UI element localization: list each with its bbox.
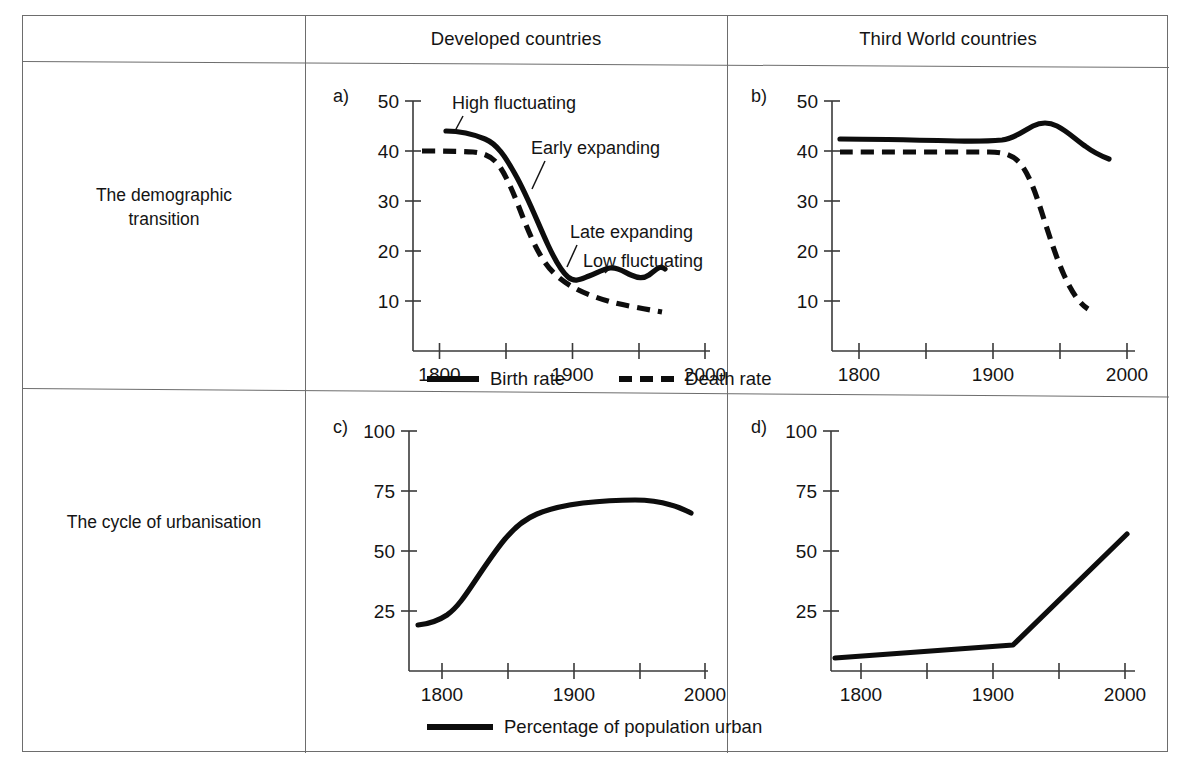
solid-line-swatch-icon <box>427 376 479 382</box>
legend-birth-death-rate: Birth rate Death rate <box>427 368 771 390</box>
legend-item-percentage-urban: Percentage of population urban <box>427 716 762 738</box>
chart-a-annotations: High fluctuating Early expanding Late ex… <box>452 93 703 273</box>
svg-text:1800: 1800 <box>840 684 882 705</box>
chart-c-axes <box>401 431 708 679</box>
legend-item-birth-rate: Birth rate <box>427 368 565 390</box>
chart-c-y-tick-labels: 100 75 50 25 <box>363 421 395 622</box>
chart-a-y-tick-labels: 50 40 30 20 10 <box>378 91 399 312</box>
figure-page: Developed countries Third World countrie… <box>0 0 1186 775</box>
svg-text:25: 25 <box>374 601 395 622</box>
svg-text:30: 30 <box>797 191 818 212</box>
dashed-line-swatch-icon <box>619 376 674 382</box>
chart-b-demographic-transition-third-world: 50 40 30 20 10 1800 1900 2000 <box>727 61 1169 388</box>
svg-text:2000: 2000 <box>1104 684 1146 705</box>
chart-cell-a: a) <box>305 61 727 388</box>
svg-text:2000: 2000 <box>1106 364 1148 385</box>
svg-text:75: 75 <box>796 481 817 502</box>
column-header-third-world: Third World countries <box>727 16 1169 61</box>
svg-text:2000: 2000 <box>684 684 726 705</box>
svg-text:25: 25 <box>796 601 817 622</box>
svg-text:10: 10 <box>378 291 399 312</box>
chart-cell-d: d) 100 75 50 <box>727 389 1169 753</box>
annotation-low-fluctuating: Low fluctuating <box>583 251 703 271</box>
legend-item-death-rate: Death rate <box>619 368 771 390</box>
annotation-early-expanding: Early expanding <box>531 138 660 158</box>
chart-d-axes <box>823 431 1135 679</box>
chart-b-y-tick-labels: 50 40 30 20 10 <box>797 91 818 312</box>
chart-d-y-tick-labels: 100 75 50 25 <box>785 421 817 622</box>
svg-text:1800: 1800 <box>421 684 463 705</box>
chart-b-x-tick-labels: 1800 1900 2000 <box>838 364 1148 385</box>
row-label-cycle-of-urbanisation: The cycle of urbanisation <box>23 510 305 534</box>
svg-text:40: 40 <box>797 141 818 162</box>
svg-text:75: 75 <box>374 481 395 502</box>
chart-a-demographic-transition-developed: 50 40 30 20 10 1800 1900 2000 High f <box>305 61 727 388</box>
chart-d-x-tick-labels: 1800 1900 2000 <box>840 684 1146 705</box>
svg-text:50: 50 <box>796 541 817 562</box>
svg-text:50: 50 <box>374 541 395 562</box>
chart-cell-c: c) 100 75 <box>305 389 727 753</box>
svg-text:100: 100 <box>785 421 817 442</box>
chart-b-series-death-rate <box>840 152 1088 309</box>
chart-c-x-tick-labels: 1800 1900 2000 <box>421 684 726 705</box>
svg-text:30: 30 <box>378 191 399 212</box>
chart-c-urbanisation-developed: 100 75 50 25 1800 1900 2000 <box>305 389 727 753</box>
svg-text:1900: 1900 <box>972 684 1014 705</box>
svg-text:10: 10 <box>797 291 818 312</box>
column-header-developed: Developed countries <box>305 16 727 61</box>
svg-text:100: 100 <box>363 421 395 442</box>
svg-text:1900: 1900 <box>553 684 595 705</box>
legend-label-death-rate: Death rate <box>685 368 771 390</box>
svg-text:50: 50 <box>797 91 818 112</box>
svg-text:20: 20 <box>378 241 399 262</box>
chart-c-series-percentage-urban <box>418 500 691 625</box>
chart-d-urbanisation-third-world: 100 75 50 25 1800 1900 2000 <box>727 389 1169 753</box>
legend-label-percentage-urban: Percentage of population urban <box>504 716 762 738</box>
svg-text:1800: 1800 <box>838 364 880 385</box>
svg-text:50: 50 <box>378 91 399 112</box>
svg-text:20: 20 <box>797 241 818 262</box>
svg-text:1900: 1900 <box>972 364 1014 385</box>
annotation-late-expanding: Late expanding <box>570 222 693 242</box>
legend-percentage-urban: Percentage of population urban <box>427 716 762 738</box>
chart-cell-b: b) 50 40 <box>727 61 1169 388</box>
legend-label-birth-rate: Birth rate <box>490 368 565 390</box>
annotation-high-fluctuating: High fluctuating <box>452 93 576 113</box>
svg-text:40: 40 <box>378 141 399 162</box>
solid-line-swatch-icon <box>427 724 493 730</box>
chart-d-series-percentage-urban <box>835 534 1127 658</box>
row-label-demographic-transition: The demographic transition <box>23 183 305 231</box>
figure-table-frame: Developed countries Third World countrie… <box>22 15 1168 752</box>
